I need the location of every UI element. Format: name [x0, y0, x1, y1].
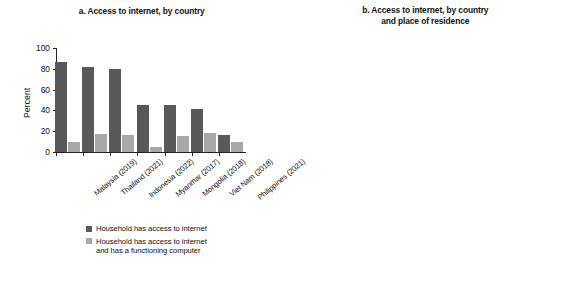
legend-label-line: and has a functioning computer: [96, 246, 207, 256]
legend-label-line: Household has access to internet: [96, 237, 207, 247]
legend-item: Household has access to internet: [86, 224, 207, 234]
chart-panel-b: b. Access to internet, by country and pl…: [284, 0, 567, 282]
chart-panel-a: a. Access to internet, by country Percen…: [0, 0, 284, 282]
legend-swatch-icon: [86, 226, 92, 232]
x-tick-mark: [192, 153, 193, 156]
x-tick-mark: [137, 153, 138, 156]
legend-swatch-icon: [86, 238, 92, 244]
x-tick-mark: [165, 153, 166, 156]
bar: [231, 142, 243, 152]
legend-label: Household has access to internet: [96, 224, 207, 234]
y-tick-mark: [53, 48, 56, 49]
panel-b-title: b. Access to internet, by country and pl…: [284, 5, 567, 27]
panel-b-title-line2: and place of residence: [284, 16, 567, 27]
x-tick-mark: [219, 153, 220, 156]
bar: [68, 142, 80, 152]
y-tick-label: 0: [30, 148, 50, 156]
figure-container: a. Access to internet, by country Percen…: [0, 0, 567, 282]
panel-b-title-line1: b. Access to internet, by country: [284, 5, 567, 16]
bar: [109, 69, 121, 152]
panel-a-x-axis: [56, 152, 246, 153]
panel-a-plot-area: 020406080100Malaysia (2019)Thailand (202…: [56, 48, 246, 152]
x-tick-mark: [56, 153, 57, 156]
x-tick-mark: [83, 153, 84, 156]
legend-label-line: Household has access to internet: [96, 224, 207, 234]
y-tick-label: 80: [30, 65, 50, 73]
panel-a-title: a. Access to internet, by country: [0, 6, 284, 17]
bar: [191, 109, 203, 152]
y-tick-label: 40: [30, 106, 50, 114]
y-tick-label: 100: [30, 44, 50, 52]
x-tick-mark: [110, 153, 111, 156]
bar: [218, 135, 230, 152]
bar: [95, 134, 107, 152]
bar: [55, 62, 67, 152]
bar: [137, 105, 149, 152]
legend-label: Household has access to internetand has …: [96, 237, 207, 256]
bar: [82, 67, 94, 152]
legend-item: Household has access to internetand has …: [86, 237, 207, 256]
bar: [177, 136, 189, 152]
bar: [150, 147, 162, 152]
y-tick-label: 60: [30, 86, 50, 94]
panel-a-legend: Household has access to internetHousehol…: [86, 224, 207, 259]
bar: [164, 105, 176, 152]
bar: [204, 133, 216, 152]
bar: [122, 135, 134, 152]
y-tick-label: 20: [30, 127, 50, 135]
